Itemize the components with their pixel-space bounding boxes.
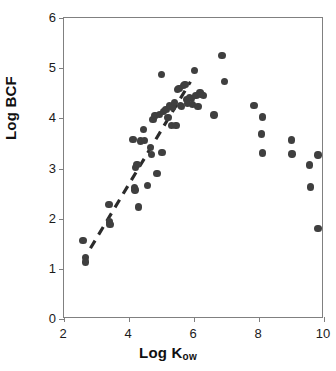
data-point (191, 67, 198, 74)
y-axis-tick (59, 68, 64, 69)
data-point (218, 52, 225, 59)
data-point (307, 183, 314, 190)
data-point (259, 149, 266, 156)
data-point (181, 81, 188, 88)
y-axis-tick-label: 3 (34, 161, 56, 174)
x-axis-tick (64, 317, 65, 322)
y-axis-tick-label: 5 (34, 61, 56, 74)
x-axis-tick (129, 317, 130, 322)
data-point (82, 258, 89, 265)
y-axis-tick-label: 2 (34, 211, 56, 224)
y-axis-tick-label: 1 (34, 261, 56, 274)
x-axis-tick (259, 317, 260, 322)
data-point (144, 182, 151, 189)
data-point (79, 237, 86, 244)
x-axis-tick-label: 6 (178, 327, 208, 340)
y-axis-tick (59, 18, 64, 19)
y-axis-tick (59, 169, 64, 170)
data-point (288, 136, 295, 143)
data-point (194, 103, 201, 110)
data-point (140, 126, 147, 133)
data-point (158, 149, 165, 156)
data-point (314, 151, 321, 158)
data-point (314, 225, 321, 232)
y-axis-tick-label: 4 (34, 111, 56, 124)
x-axis-title: Log Kow (0, 344, 336, 361)
x-axis-tick-label: 8 (243, 327, 273, 340)
data-point (148, 151, 155, 158)
data-point (288, 150, 295, 157)
data-point (210, 111, 217, 118)
data-point (135, 203, 142, 210)
data-point (129, 136, 136, 143)
data-point (105, 201, 112, 208)
data-point (200, 92, 207, 99)
x-axis-tick-label: 10 (308, 327, 336, 340)
y-axis-tick-label: 0 (34, 312, 56, 325)
x-axis-tick-label: 2 (48, 327, 78, 340)
x-axis-tick (324, 317, 325, 322)
data-point (258, 130, 265, 137)
x-axis-title-subscript: ow (183, 351, 197, 362)
data-point (153, 170, 160, 177)
x-axis-title-main: Log K (139, 344, 183, 361)
data-point (106, 221, 113, 228)
y-axis-tick (59, 269, 64, 270)
x-axis-tick-label: 4 (113, 327, 143, 340)
data-point (306, 161, 313, 168)
x-axis-tick (194, 317, 195, 322)
scatter-chart-figure: Log BCF 0123456 246810 Log Kow (0, 0, 336, 371)
data-point (158, 71, 165, 78)
plot-area (63, 17, 323, 318)
data-point (259, 113, 266, 120)
data-point (141, 137, 148, 144)
y-axis-tick-label: 6 (34, 11, 56, 24)
y-axis-tick (59, 118, 64, 119)
data-point (164, 114, 171, 121)
y-axis-title: Log BCF (2, 76, 19, 140)
data-point (131, 186, 138, 193)
data-point (172, 122, 179, 129)
data-point (250, 102, 257, 109)
trendline (64, 18, 322, 317)
data-point (133, 161, 140, 168)
y-axis-tick (59, 219, 64, 220)
data-point (221, 78, 228, 85)
